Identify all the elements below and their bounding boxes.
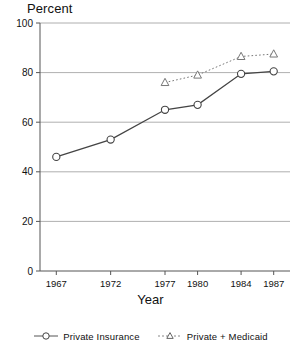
triangle-marker-icon <box>157 330 183 342</box>
legend-label-private-insurance: Private Insurance <box>63 331 139 342</box>
data-point-marker <box>161 78 169 85</box>
data-point-marker <box>107 136 114 143</box>
data-point-marker <box>270 50 278 57</box>
legend-label-private-medicaid: Private + Medicaid <box>187 331 268 342</box>
legend-item-private-medicaid: Private + Medicaid <box>157 330 268 342</box>
data-point-marker <box>237 70 244 77</box>
data-point-marker <box>53 153 60 160</box>
y-tick-label-0: 0 <box>27 266 33 277</box>
line-chart-plot: 020406080100196719721977198019841987 <box>0 0 301 290</box>
series-line-1 <box>165 54 274 83</box>
x-tick-label-1980: 1980 <box>187 278 208 289</box>
x-tick-label-1987: 1987 <box>263 278 284 289</box>
data-point-marker <box>270 68 277 75</box>
y-tick-label-20: 20 <box>22 216 34 227</box>
x-tick-label-1967: 1967 <box>46 278 67 289</box>
data-point-marker <box>237 52 245 59</box>
data-point-marker <box>194 71 202 78</box>
chart-legend: Private Insurance Private + Medicaid <box>0 330 301 342</box>
x-tick-label-1977: 1977 <box>154 278 175 289</box>
y-tick-label-100: 100 <box>16 18 33 29</box>
x-tick-label-1972: 1972 <box>100 278 121 289</box>
y-tick-label-60: 60 <box>22 117 34 128</box>
x-axis-title: Year <box>0 292 301 307</box>
x-tick-label-1984: 1984 <box>231 278 252 289</box>
y-tick-label-40: 40 <box>22 166 34 177</box>
circle-marker-icon <box>33 330 59 342</box>
data-point-marker <box>161 106 168 113</box>
data-point-marker <box>194 101 201 108</box>
chart-figure: Percent 02040608010019671972197719801984… <box>0 0 301 353</box>
y-tick-label-80: 80 <box>22 67 34 78</box>
legend-item-private-insurance: Private Insurance <box>33 330 139 342</box>
